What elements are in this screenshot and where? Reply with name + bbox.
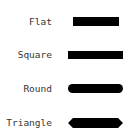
- triangle-cap-line: [68, 118, 123, 128]
- square-cap-line: [68, 51, 123, 59]
- round-cap-line: [68, 84, 123, 93]
- label-flat: Flat: [29, 17, 52, 27]
- flat-cap-line: [73, 17, 119, 26]
- label-triangle: Triangle: [6, 118, 52, 128]
- label-square: Square: [18, 50, 52, 60]
- label-round: Round: [23, 84, 52, 94]
